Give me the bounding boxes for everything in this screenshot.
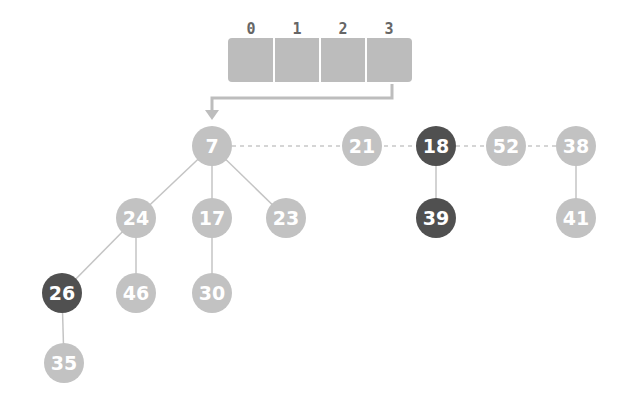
- heap-node: 7: [192, 126, 232, 166]
- array-index: 0: [228, 20, 274, 38]
- pointer-arrow: [212, 84, 392, 112]
- array-cell: [367, 38, 412, 82]
- heap-node: 41: [556, 198, 596, 238]
- heap-node: 30: [192, 273, 232, 313]
- heap-node: 23: [266, 198, 306, 238]
- heap-node: 52: [486, 126, 526, 166]
- array-cell: [228, 38, 273, 82]
- array-cell: [275, 38, 319, 82]
- array-index: 3: [366, 20, 412, 38]
- array-index: 2: [320, 20, 366, 38]
- heap-node: 26: [42, 273, 82, 313]
- heap-node: 21: [342, 126, 382, 166]
- array-cell: [321, 38, 365, 82]
- heap-node: 38: [556, 126, 596, 166]
- heap-node: 18: [416, 126, 456, 166]
- array-index: 1: [274, 20, 320, 38]
- heap-node: 24: [116, 198, 156, 238]
- heap-node: 17: [192, 198, 232, 238]
- arrowhead-icon: [205, 110, 219, 120]
- heap-node: 35: [44, 343, 84, 383]
- heap-node: 46: [116, 273, 156, 313]
- heap-node: 39: [416, 198, 456, 238]
